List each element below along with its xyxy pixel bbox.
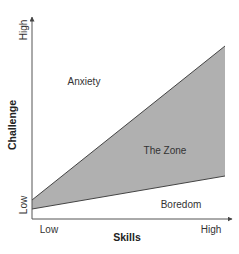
y-axis-high-label: High: [18, 20, 29, 41]
zone-region: [32, 46, 225, 209]
y-axis-title: Challenge: [6, 100, 18, 150]
x-axis-title: Skills: [113, 231, 141, 243]
region-boredom-label: Boredom: [161, 199, 202, 210]
x-axis-high-label: High: [201, 224, 222, 235]
region-zone-label: The Zone: [144, 145, 187, 156]
x-axis-low-label: Low: [40, 224, 59, 235]
region-anxiety-label: Anxiety: [68, 76, 101, 87]
flow-diagram: High Low Challenge Low High Skills Anxie…: [0, 0, 239, 254]
y-axis-low-label: Low: [18, 195, 29, 214]
